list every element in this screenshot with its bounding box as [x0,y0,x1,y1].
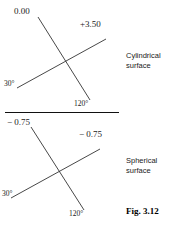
power-label-top-right: − 0.75 [79,130,102,139]
angle-label-120: 120° [74,100,88,108]
angle-label-120: 120° [69,210,83,218]
power-label-top-right: +3.50 [80,20,101,29]
optical-cross-spherical: − 0.75 − 0.75 30° 120° Spherical surface… [0,118,173,239]
angle-label-30: 30° [4,80,15,88]
optical-cross-cylindrical: 0.00 +3.50 30° 120° Cylindrical surface [0,0,173,113]
meridian-line-120 [38,17,90,100]
power-label-top-left: − 0.75 [7,118,30,127]
angle-label-30: 30° [2,190,13,198]
power-label-top-left: 0.00 [14,7,30,16]
surface-type-label-spherical-line2: surface [126,166,151,176]
figure-caption: Fig. 3.12 [126,206,159,216]
figure-3-12: 0.00 +3.50 30° 120° Cylindrical surface … [0,0,173,239]
meridian-line-120 [31,127,84,210]
surface-type-label-cylindrical-line2: surface [126,61,151,71]
surface-type-label-cylindrical-line1: Cylindrical [126,51,161,61]
meridian-line-30 [11,149,100,198]
surface-type-label-spherical-line1: Spherical [126,156,157,166]
section-divider [5,112,119,113]
meridian-line-30 [17,39,106,88]
